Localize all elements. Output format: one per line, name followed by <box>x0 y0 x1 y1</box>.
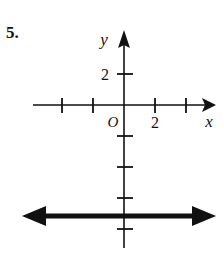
y-axis-label: y <box>98 30 108 49</box>
plotted-line-arrowhead-left-icon <box>22 206 46 226</box>
x-tick-label-2: 2 <box>151 114 159 131</box>
figure-container: 5. y x O 2 2 <box>0 0 224 257</box>
y-tick-label-2: 2 <box>101 66 109 83</box>
coordinate-graph: y x O 2 2 <box>0 0 224 257</box>
origin-label: O <box>108 114 119 130</box>
x-axis-label: x <box>204 112 213 131</box>
plotted-line-arrowhead-right-icon <box>192 206 216 226</box>
